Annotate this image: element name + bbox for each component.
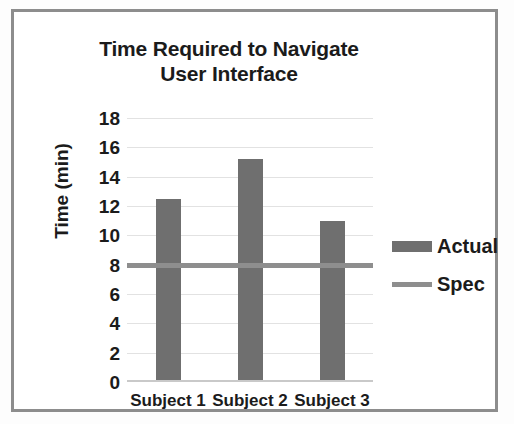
- x-axis-tick-labels: Subject 1Subject 2Subject 3: [127, 391, 373, 415]
- chart-title-line-1: Time Required to Navigate: [54, 36, 404, 61]
- legend-item-actual: Actual: [392, 227, 512, 265]
- y-axis-tick-label: 4: [80, 314, 120, 333]
- gridline: [127, 118, 373, 119]
- y-axis-tick-label: 0: [80, 373, 120, 392]
- y-axis-tick-labels: 181614121086420: [76, 118, 120, 382]
- legend-swatch-bar-icon: [392, 241, 432, 252]
- gridline: [127, 147, 373, 148]
- figure-border: Time Required to Navigate User Interface…: [11, 9, 498, 412]
- y-axis-tick-label: 6: [80, 285, 120, 304]
- spec-reference-line: [127, 263, 373, 268]
- x-axis-tick-label: Subject 1: [127, 391, 209, 415]
- y-axis-tick-label: 14: [80, 168, 120, 187]
- chart-title: Time Required to Navigate User Interface: [54, 36, 404, 86]
- bar: [320, 221, 345, 382]
- x-axis-line: [127, 380, 373, 382]
- chart-legend: Actual Spec: [392, 227, 512, 303]
- bar: [238, 159, 263, 382]
- y-axis-tick-label: 10: [80, 226, 120, 245]
- x-axis-tick-label: Subject 2: [209, 391, 291, 415]
- y-axis-tick-label: 12: [80, 197, 120, 216]
- plot-area: [127, 118, 373, 382]
- y-axis-tick-label: 16: [80, 138, 120, 157]
- y-axis-tick-label: 8: [80, 256, 120, 275]
- y-axis-tick-label: 2: [80, 344, 120, 363]
- y-axis-title: Time (min): [51, 121, 73, 261]
- legend-item-spec: Spec: [392, 265, 512, 303]
- legend-swatch-line-icon: [392, 282, 432, 287]
- x-axis-tick-label: Subject 3: [291, 391, 373, 415]
- chart-title-line-2: User Interface: [54, 61, 404, 86]
- y-axis-tick-label: 18: [80, 109, 120, 128]
- bar: [156, 199, 181, 382]
- legend-label-spec: Spec: [437, 273, 485, 296]
- legend-label-actual: Actual: [437, 235, 498, 258]
- chart-figure: Time Required to Navigate User Interface…: [0, 0, 514, 424]
